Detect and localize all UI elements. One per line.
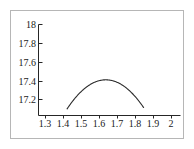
chart-plot-area: 18 17.8 17.6 17.4 17.2 1.3 1.4 1.5 1.6 1… [0,0,194,149]
x-axis [39,116,181,119]
data-series-curve [67,80,144,109]
y-axis [39,25,43,116]
chart-svg [0,0,194,149]
